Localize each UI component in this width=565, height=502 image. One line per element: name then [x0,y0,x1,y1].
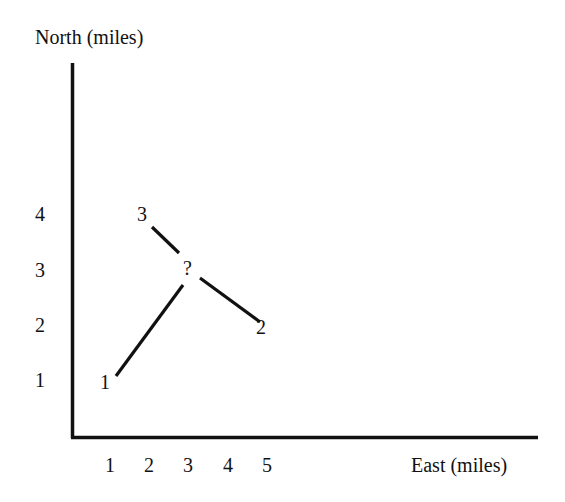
y-tick-1: 1 [35,370,45,390]
x-tick-3: 3 [183,455,193,475]
x-tick-5: 5 [262,455,272,475]
segment-3-to-unknown [152,227,179,253]
segment-2-to-unknown [200,278,260,322]
segment-1-to-unknown [116,285,183,376]
y-tick-2: 2 [35,315,45,335]
y-tick-3: 3 [35,260,45,280]
x-axis-label: East (miles) [411,455,507,475]
y-axis-label: North (miles) [35,27,143,47]
x-tick-4: 4 [223,455,233,475]
x-tick-1: 1 [105,455,115,475]
point-label-3: 3 [137,204,147,224]
point-label-2: 2 [256,317,266,337]
x-tick-2: 2 [144,455,154,475]
point-label-1: 1 [100,372,110,392]
point-label-unknown: ? [183,258,192,278]
diagram-canvas [0,0,565,502]
y-tick-4: 4 [35,204,45,224]
